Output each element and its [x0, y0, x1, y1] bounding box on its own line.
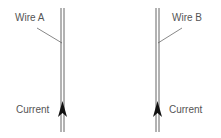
wire-a-label: Wire A [15, 12, 44, 24]
wire-a-leader-line [37, 28, 62, 43]
wire-b-leader-line [158, 28, 182, 43]
wire-b-label: Wire B [172, 12, 202, 24]
wire-b-current-label: Current [169, 104, 202, 116]
wire-a-current-label: Current [16, 104, 49, 116]
wire-b-current-arrow-icon [153, 101, 162, 117]
wire-a-current-arrow-icon [58, 101, 67, 117]
